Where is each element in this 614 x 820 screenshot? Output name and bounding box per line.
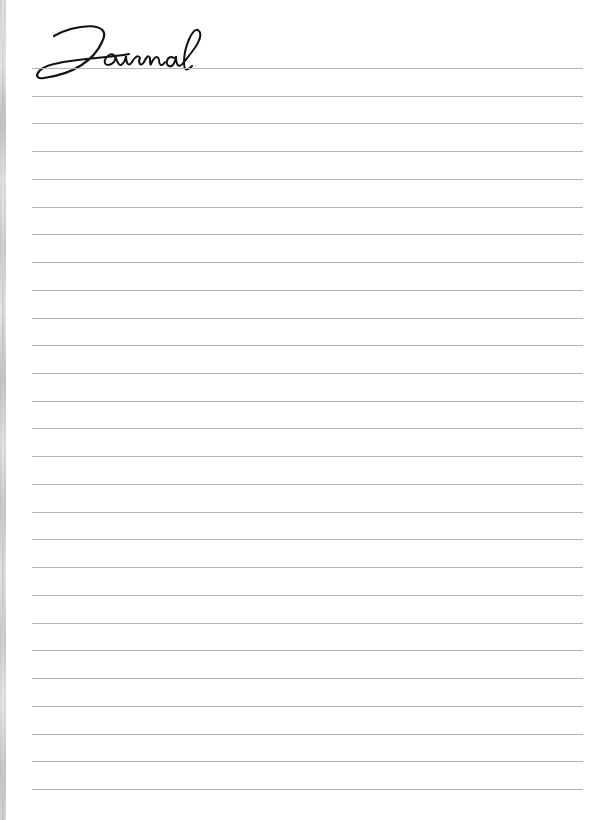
ruled-line <box>32 734 583 735</box>
ruled-line <box>32 484 583 485</box>
ruled-line <box>32 179 583 180</box>
ruled-line <box>32 373 583 374</box>
ruled-line <box>32 678 583 679</box>
ruled-line <box>32 650 583 651</box>
ruled-line <box>32 706 583 707</box>
ruled-line <box>32 539 583 540</box>
ruled-line <box>32 345 583 346</box>
ruled-line <box>32 262 583 263</box>
ruled-line <box>32 123 583 124</box>
ruled-line <box>32 789 583 790</box>
ruled-line <box>32 761 583 762</box>
marble-edge-strip <box>0 0 6 820</box>
ruled-line <box>32 234 583 235</box>
ruled-line <box>32 567 583 568</box>
ruled-line <box>32 151 583 152</box>
ruled-line <box>32 68 583 69</box>
ruled-line <box>32 595 583 596</box>
ruled-line <box>32 512 583 513</box>
ruled-line <box>32 456 583 457</box>
ruled-lines <box>32 0 583 820</box>
ruled-line <box>32 290 583 291</box>
ruled-line <box>32 428 583 429</box>
ruled-line <box>32 623 583 624</box>
ruled-line <box>32 207 583 208</box>
ruled-line <box>32 401 583 402</box>
ruled-line <box>32 318 583 319</box>
ruled-line <box>32 96 583 97</box>
